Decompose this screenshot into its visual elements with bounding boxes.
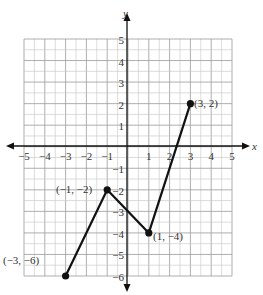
y-tick: 5: [119, 34, 125, 46]
coordinate-plane: x y −5 −4 −3 −2 −1 1 2 3 4 5 5 4 3 2 1 −…: [0, 0, 263, 295]
point-label-1: (−3, −6): [3, 254, 40, 267]
x-axis-left-arrow-icon: [6, 143, 14, 150]
data-point: [62, 272, 69, 279]
y-tick: 4: [119, 56, 125, 68]
x-tick: 3: [188, 150, 194, 162]
x-tick: −5: [18, 150, 30, 162]
y-tick: −2: [112, 185, 124, 197]
y-tick: 2: [119, 99, 125, 111]
y-tick: −6: [112, 271, 124, 283]
y-tick: −3: [112, 206, 124, 218]
point-label-3: (1, −4): [153, 230, 183, 243]
x-tick: −1: [101, 150, 113, 162]
point-label-4: (3, 2): [194, 97, 218, 110]
y-tick: −5: [112, 249, 124, 261]
y-axis-down-arrow-icon: [124, 284, 131, 292]
x-tick: −4: [39, 150, 51, 162]
y-tick: 1: [119, 120, 125, 132]
x-tick: −3: [60, 150, 72, 162]
y-tick: −4: [112, 228, 124, 240]
point-labels: (−3, −6) (−1, −2) (1, −4) (3, 2): [3, 97, 218, 267]
grid: [24, 39, 232, 276]
y-axis-label: y: [122, 7, 128, 19]
x-axis-label: x: [251, 140, 257, 152]
x-tick: 5: [229, 150, 235, 162]
data-point: [145, 229, 152, 236]
x-tick: 4: [208, 150, 214, 162]
y-tick: −1: [112, 163, 124, 175]
x-tick: −2: [81, 150, 93, 162]
y-tick: 3: [119, 77, 125, 89]
x-tick: 1: [146, 150, 152, 162]
point-label-2: (−1, −2): [56, 183, 93, 196]
x-axis-right-arrow-icon: [242, 143, 250, 150]
data-point: [187, 100, 194, 107]
data-point: [104, 186, 111, 193]
